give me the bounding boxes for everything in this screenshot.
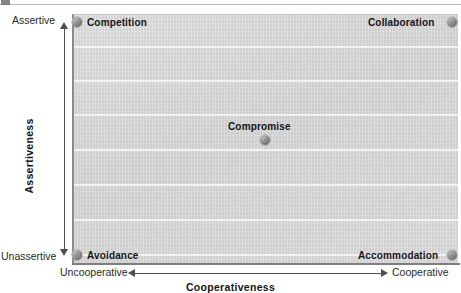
y-axis-bottom-label: Unassertive bbox=[1, 250, 56, 262]
y-axis-shaft bbox=[64, 27, 65, 251]
y-axis-top-label: Assertive bbox=[12, 14, 55, 26]
marker-collaboration[interactable] bbox=[447, 17, 458, 28]
scan-top-strip bbox=[0, 0, 461, 9]
gridline bbox=[74, 149, 458, 151]
gridline bbox=[74, 80, 458, 82]
x-axis-arrow bbox=[128, 268, 388, 279]
x-axis-left-label: Uncooperative bbox=[60, 266, 128, 278]
x-axis-right-label: Cooperative bbox=[392, 266, 449, 278]
scan-corner-mark bbox=[1, 0, 10, 5]
x-axis-title: Cooperativeness bbox=[0, 281, 461, 293]
arrow-down-icon bbox=[60, 249, 68, 256]
label-collaboration: Collaboration bbox=[368, 17, 434, 28]
y-axis-title: Assertiveness bbox=[23, 101, 35, 211]
gridline bbox=[74, 46, 458, 48]
x-axis-shaft bbox=[133, 273, 383, 274]
marker-accommodation[interactable] bbox=[447, 250, 458, 261]
gridline bbox=[74, 184, 458, 186]
label-avoidance: Avoidance bbox=[87, 250, 139, 261]
gridline bbox=[74, 114, 458, 116]
gridline bbox=[74, 219, 458, 221]
label-compromise: Compromise bbox=[228, 121, 291, 132]
y-axis-arrow bbox=[59, 22, 70, 256]
label-accommodation: Accommodation bbox=[358, 250, 438, 261]
scan-rule-line bbox=[0, 4, 461, 5]
marker-compromise[interactable] bbox=[260, 135, 271, 146]
chart-bottom-axis-line bbox=[72, 263, 460, 265]
marker-competition[interactable] bbox=[72, 17, 83, 28]
marker-avoidance[interactable] bbox=[72, 250, 83, 261]
label-competition: Competition bbox=[87, 17, 147, 28]
arrow-right-icon bbox=[381, 269, 388, 277]
